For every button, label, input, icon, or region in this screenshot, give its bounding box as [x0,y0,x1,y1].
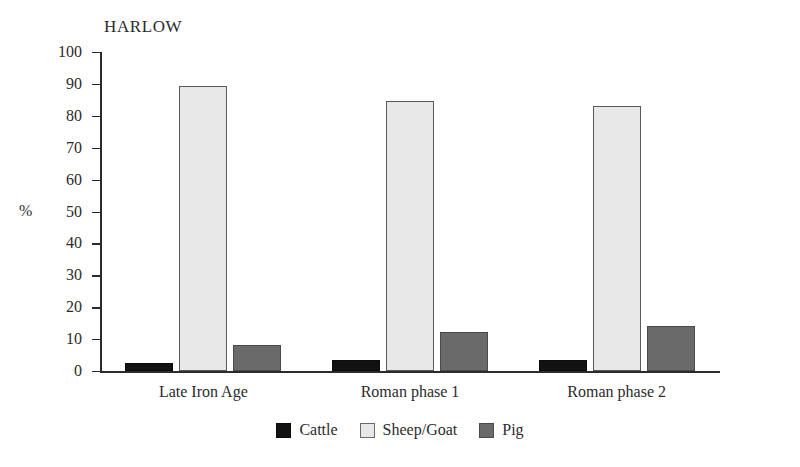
y-axis-tick-mark [92,180,100,181]
legend-swatch-cattle [276,423,291,438]
y-axis-tick-mark [92,307,100,308]
y-axis-tick-label: 0 [36,363,82,379]
x-axis-group-label: Roman phase 2 [517,383,717,401]
y-axis-tick-label: 50 [36,204,82,220]
y-axis-tick-mark [92,148,100,149]
bar [233,345,281,371]
y-axis-tick-mark [92,116,100,117]
y-axis-tick-label: 100 [36,44,82,60]
y-axis-tick-label: 90 [36,76,82,92]
x-axis-group-label: Roman phase 1 [310,383,510,401]
legend-label: Pig [502,421,523,439]
bar [125,363,173,371]
legend-label: Cattle [299,421,337,439]
bar [440,332,488,371]
legend-item: Pig [479,421,523,439]
bar [179,86,227,372]
y-axis-tick-label: 60 [36,172,82,188]
bar [332,360,380,371]
y-axis-tick-mark [92,339,100,340]
chart-legend: CattleSheep/GoatPig [0,421,800,439]
bar [386,101,434,371]
x-axis-line [100,371,720,373]
y-axis-tick-label: 80 [36,108,82,124]
y-axis-title: % [19,202,32,220]
chart-figure: HARLOW % 1009080706050403020100 Late Iro… [0,0,800,467]
y-axis-tick-labels: 1009080706050403020100 [36,0,82,467]
y-axis-tick-label: 40 [36,235,82,251]
bar [647,326,695,371]
y-axis-tick-label: 10 [36,331,82,347]
y-axis-tick-label: 20 [36,299,82,315]
y-axis-tick-label: 30 [36,267,82,283]
y-axis-tick-mark [92,371,100,372]
y-axis-tick-label: 70 [36,140,82,156]
legend-swatch-sheepgoat [360,423,375,438]
bar [593,106,641,371]
legend-item: Cattle [276,421,337,439]
y-axis-tick-mark [92,212,100,213]
legend-swatch-pig [479,423,494,438]
y-axis-tick-mark [92,275,100,276]
legend-item: Sheep/Goat [360,421,458,439]
legend-label: Sheep/Goat [383,421,458,439]
y-axis-tick-mark [92,52,100,53]
bar [539,360,587,371]
plot-area [100,52,720,371]
x-axis-group-label: Late Iron Age [103,383,303,401]
y-axis-tick-mark [92,243,100,244]
y-axis-tick-mark [92,84,100,85]
chart-title: HARLOW [104,17,182,37]
